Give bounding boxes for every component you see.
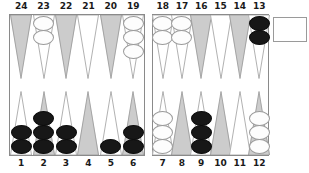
backgammon-board: 242322212019181716151413123456789101112	[0, 0, 309, 173]
point-label-24: 24	[10, 1, 32, 12]
point-label-3: 3	[55, 158, 77, 169]
point-label-19: 19	[122, 1, 144, 12]
point-label-6: 6	[122, 158, 144, 169]
checker-white-point-12[interactable]	[249, 125, 270, 140]
point-label-22: 22	[55, 1, 77, 12]
point-label-20: 20	[100, 1, 122, 12]
checker-black-point-6[interactable]	[123, 125, 144, 140]
checker-white-point-19[interactable]	[123, 44, 144, 59]
checker-white-point-7[interactable]	[152, 111, 173, 126]
checker-white-point-19[interactable]	[123, 30, 144, 45]
checker-black-point-3[interactable]	[56, 125, 77, 140]
checker-white-point-7[interactable]	[152, 139, 173, 154]
point-label-2: 2	[33, 158, 55, 169]
checker-white-point-18[interactable]	[152, 30, 173, 45]
point-label-23: 23	[33, 1, 55, 12]
checker-white-point-12[interactable]	[249, 139, 270, 154]
point-triangle-21[interactable]	[77, 15, 99, 79]
point-label-13: 13	[248, 1, 270, 12]
checker-black-point-2[interactable]	[33, 125, 54, 140]
checker-black-point-2[interactable]	[33, 111, 54, 126]
checker-white-point-12[interactable]	[249, 111, 270, 126]
point-triangle-22[interactable]	[55, 15, 77, 79]
point-label-21: 21	[77, 1, 99, 12]
point-label-12: 12	[248, 158, 270, 169]
point-label-4: 4	[77, 158, 99, 169]
point-triangle-24[interactable]	[10, 15, 32, 79]
checker-white-point-23[interactable]	[33, 30, 54, 45]
checker-black-point-3[interactable]	[56, 139, 77, 154]
point-triangle-4[interactable]	[77, 91, 99, 155]
checker-black-point-9[interactable]	[191, 111, 212, 126]
checker-black-point-6[interactable]	[123, 139, 144, 154]
bear-off-tray[interactable]	[273, 17, 307, 42]
checker-black-point-13[interactable]	[249, 30, 270, 45]
checker-white-point-18[interactable]	[152, 16, 173, 31]
checker-black-point-9[interactable]	[191, 139, 212, 154]
checker-black-point-1[interactable]	[11, 125, 32, 140]
checker-black-point-9[interactable]	[191, 125, 212, 140]
checker-white-point-19[interactable]	[123, 16, 144, 31]
point-label-1: 1	[10, 158, 32, 169]
checker-white-point-23[interactable]	[33, 16, 54, 31]
checker-black-point-13[interactable]	[249, 16, 270, 31]
checker-black-point-2[interactable]	[33, 139, 54, 154]
point-label-5: 5	[100, 158, 122, 169]
checker-white-point-7[interactable]	[152, 125, 173, 140]
checker-black-point-1[interactable]	[11, 139, 32, 154]
point-triangle-20[interactable]	[100, 15, 122, 79]
